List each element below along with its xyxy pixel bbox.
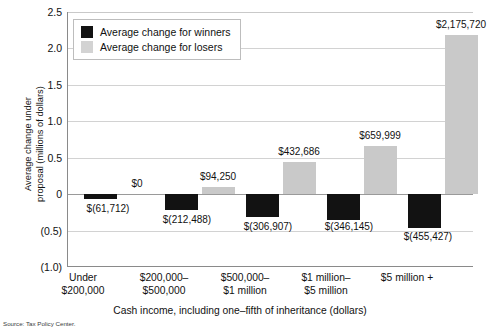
bar-group-1million-5million: $659,999 $(346,145)	[321, 12, 403, 267]
bar-losers-200000-500000[interactable]	[202, 187, 235, 194]
chart-legend: Average change for winners Average chang…	[73, 19, 241, 60]
source-note: Source: Tax Policy Center.	[3, 320, 75, 327]
legend-label-winners: Average change for winners	[100, 26, 231, 38]
y-tick-label-1.5: 1.5	[20, 79, 62, 91]
legend-label-losers: Average change for losers	[100, 41, 222, 53]
x-tick-label-5million-plus: $5 million +	[359, 272, 455, 285]
bar-winners-500000-1million[interactable]	[246, 194, 279, 217]
y-tick-label-2.0: 2.0	[20, 42, 62, 54]
value-label-winners-under-200000: $(61,712)	[58, 203, 158, 214]
bar-losers-5million-plus[interactable]	[445, 35, 478, 194]
y-tick-label-neg0.5: (0.5)	[20, 225, 62, 237]
bar-winners-200000-500000[interactable]	[165, 194, 198, 210]
y-tick-label-2.5: 2.5	[20, 6, 62, 18]
bar-losers-1million-5million[interactable]	[364, 146, 397, 194]
x-axis-title: Cash income, including one–fifth of inhe…	[0, 305, 480, 316]
y-tick-label-0.5: 0.5	[20, 152, 62, 164]
bar-winners-1million-5million[interactable]	[327, 194, 360, 220]
legend-swatch-losers-icon	[81, 41, 93, 53]
bar-losers-500000-1million[interactable]	[283, 162, 316, 194]
legend-item-losers[interactable]: Average change for losers	[81, 39, 231, 54]
y-tick-label-1.0: 1.0	[20, 115, 62, 127]
x-tick-5million-plus-line1: $5 million +	[359, 272, 455, 285]
legend-item-winners[interactable]: Average change for winners	[81, 24, 231, 39]
value-label-losers-5million-plus: $2,175,720	[416, 19, 491, 30]
y-tick-label-0: 0	[20, 188, 62, 200]
bar-winners-under-200000[interactable]	[84, 194, 117, 199]
value-label-winners-5million-plus: $(455,427)	[378, 231, 478, 242]
legend-swatch-winners-icon	[81, 26, 93, 38]
x-tick-1million-5million-line2: $5 million	[278, 285, 374, 298]
bar-winners-5million-plus[interactable]	[408, 194, 441, 228]
bar-group-5million-plus: $2,175,720 $(455,427)	[402, 12, 484, 267]
